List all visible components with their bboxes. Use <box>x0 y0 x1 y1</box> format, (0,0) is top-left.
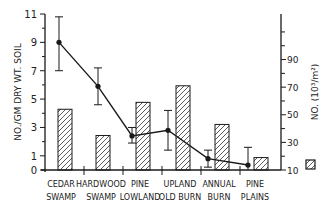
bar <box>136 102 150 170</box>
bar <box>58 109 72 170</box>
left-tick-label: 9 <box>31 37 37 48</box>
data-point <box>245 162 250 167</box>
category-label: PINE <box>246 180 264 189</box>
left-tick-label: 5 <box>31 94 37 105</box>
category-label: SWAMP <box>86 193 116 202</box>
left-tick-label: 0 <box>31 165 37 176</box>
bar <box>176 86 190 170</box>
left-axis-title-text: NO./GM DRY WT. SOIL <box>13 43 23 140</box>
right-tick-label: 70 <box>287 83 299 93</box>
category-label: PINE <box>131 180 149 189</box>
bar <box>215 124 229 170</box>
category-label: OLD BURN <box>159 193 201 202</box>
category-label: HARDWOOD <box>76 180 126 189</box>
right-tick-label: 90 <box>287 55 299 65</box>
data-point <box>129 133 134 138</box>
category-label: SWAMP <box>46 193 76 202</box>
right-tick-label: 30 <box>287 138 299 148</box>
left-tick-label: 11 <box>24 9 37 20</box>
category-label: ANNUAL <box>202 180 236 189</box>
category-label: BURN <box>208 193 231 202</box>
axes <box>40 14 286 175</box>
bar <box>254 158 268 170</box>
data-point <box>56 40 61 45</box>
left-tick-label: 7 <box>31 66 37 77</box>
data-point <box>205 156 210 161</box>
category-label: PLAINS <box>241 193 269 202</box>
category-label: LOWLAND <box>120 193 161 202</box>
left-tick-label: 1 <box>31 151 37 162</box>
category-label: UPLAND <box>164 180 197 189</box>
legend-hatch-icon <box>306 160 315 169</box>
right-tick-label: 50 <box>287 110 299 120</box>
category-label: CEDAR <box>47 180 75 189</box>
chart-svg: 013579111030507090CEDARSWAMPHARDWOODSWAM… <box>0 0 326 211</box>
left-tick-label: 3 <box>31 122 37 133</box>
data-point <box>95 84 100 89</box>
right-tick-label: 10 <box>287 166 299 176</box>
chart-figure: 013579111030507090CEDARSWAMPHARDWOODSWAM… <box>0 0 326 211</box>
right-axis-title-text: NO. (10³/m²) <box>310 64 320 121</box>
data-point <box>165 128 170 133</box>
bar <box>96 135 110 170</box>
bar-series <box>58 86 268 170</box>
